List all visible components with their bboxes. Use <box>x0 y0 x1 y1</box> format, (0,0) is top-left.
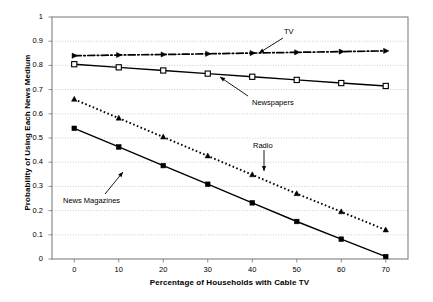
data-point-marker <box>339 49 344 54</box>
x-tick-label: 0 <box>62 265 86 274</box>
x-tick-label: 60 <box>329 265 353 274</box>
data-point-marker <box>161 68 166 73</box>
data-point-marker <box>116 145 121 150</box>
y-tick-label: 0.3 <box>19 181 43 190</box>
x-tick-label: 50 <box>285 265 309 274</box>
data-point-marker <box>383 254 388 259</box>
data-point-marker <box>161 163 166 168</box>
data-point-marker <box>205 71 210 76</box>
data-point-marker <box>72 62 77 67</box>
y-tick-label: 1 <box>19 12 43 21</box>
x-tick-label: 20 <box>151 265 175 274</box>
data-point-marker <box>295 50 300 55</box>
annotation-label-tv: TV <box>284 27 294 36</box>
y-tick-label: 0.9 <box>19 36 43 45</box>
annotation-label-radio: Radio <box>253 141 273 150</box>
data-point-marker <box>116 65 121 70</box>
plot-area <box>0 0 433 302</box>
data-point-marker <box>339 237 344 242</box>
data-point-marker <box>250 172 255 177</box>
y-tick-label: 0.2 <box>19 206 43 215</box>
data-point-marker <box>250 50 255 55</box>
x-tick-label: 70 <box>374 265 398 274</box>
y-tick-label: 0.8 <box>19 60 43 69</box>
x-tick-label: 10 <box>107 265 131 274</box>
chart-container: Probability of Using Each News Medium Pe… <box>0 0 433 302</box>
y-tick-label: 0.4 <box>19 157 43 166</box>
data-point-marker <box>294 219 299 224</box>
data-point-marker <box>72 96 77 101</box>
x-tick-label: 30 <box>196 265 220 274</box>
annotation-label-news-magazines: News Magazines <box>63 196 120 205</box>
data-point-marker <box>294 191 299 196</box>
data-series-layer <box>72 48 389 259</box>
data-point-marker <box>72 126 77 131</box>
x-tick-label: 40 <box>240 265 264 274</box>
annotation-label-newspapers: Newspapers <box>252 98 294 107</box>
axis-tick-marks <box>49 17 386 263</box>
gridlines <box>52 41 408 235</box>
y-tick-label: 0.5 <box>19 133 43 142</box>
y-tick-label: 0 <box>19 254 43 263</box>
data-point-marker <box>294 77 299 82</box>
annotation-arrows <box>105 38 283 194</box>
data-point-marker <box>161 134 166 139</box>
data-point-marker <box>339 80 344 85</box>
x-axis-title: Percentage of Households with Cable TV <box>52 278 407 287</box>
data-point-marker <box>206 51 211 56</box>
data-point-marker <box>205 153 210 158</box>
data-point-marker <box>383 227 388 232</box>
data-point-marker <box>72 53 77 58</box>
data-point-marker <box>116 115 121 120</box>
y-tick-label: 0.1 <box>19 230 43 239</box>
y-tick-label: 0.6 <box>19 109 43 118</box>
data-point-marker <box>205 182 210 187</box>
data-point-marker <box>250 201 255 206</box>
data-point-marker <box>383 83 388 88</box>
data-point-marker <box>117 52 122 57</box>
data-point-marker <box>339 209 344 214</box>
y-tick-label: 0.7 <box>19 85 43 94</box>
data-point-marker <box>161 52 166 57</box>
data-point-marker <box>250 74 255 79</box>
data-point-marker <box>384 48 389 53</box>
